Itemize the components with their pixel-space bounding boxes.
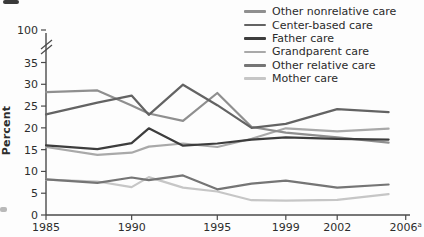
legend-label: Center-based care <box>272 19 373 32</box>
legend-item: Other relative care <box>244 59 396 72</box>
chart-legend: Other nonrelative care Center-based care… <box>244 5 396 85</box>
x-tick-label: 2006a <box>390 221 422 234</box>
legend-line-swatch <box>244 24 266 27</box>
y-tick-label: 5 <box>31 187 38 200</box>
x-tick-label: 2002 <box>323 221 351 234</box>
legend-item: Center-based care <box>244 18 396 31</box>
series-line-grandparent-care <box>46 128 389 155</box>
scan-artifact-mark <box>3 0 19 4</box>
y-tick-label: 25 <box>24 100 38 113</box>
chart-figure: Percent 05101520253035100198519901995199… <box>0 0 424 237</box>
y-tick-label: 20 <box>24 122 38 135</box>
legend-label: Father care <box>272 32 334 45</box>
series-line-other-relative-care <box>46 175 389 189</box>
legend-item: Father care <box>244 32 396 45</box>
y-axis-break-label: 100 <box>17 24 38 37</box>
legend-label: Other nonrelative care <box>272 5 396 18</box>
y-tick-label: 35 <box>24 57 38 70</box>
y-tick-label: 15 <box>24 144 38 157</box>
legend-item: Other nonrelative care <box>244 5 396 18</box>
legend-item: Grandparent care <box>244 45 396 58</box>
legend-label: Other relative care <box>272 59 376 72</box>
series-line-other-nonrelative-care <box>46 90 389 142</box>
legend-item: Mother care <box>244 72 396 85</box>
x-tick-label: 1990 <box>118 221 146 234</box>
scan-artifact-mark <box>0 207 7 212</box>
legend-line-swatch <box>244 64 266 67</box>
legend-label: Mother care <box>272 72 338 85</box>
legend-line-swatch <box>244 10 266 13</box>
y-tick-label: 10 <box>24 165 38 178</box>
y-axis-label: Percent <box>0 101 13 161</box>
legend-line-swatch <box>244 77 266 80</box>
x-tick-label: 1999 <box>272 221 300 234</box>
x-tick-label: 1985 <box>32 221 60 234</box>
legend-label: Grandparent care <box>272 45 369 58</box>
y-tick-label: 30 <box>24 78 38 91</box>
legend-line-swatch <box>244 37 266 40</box>
legend-line-swatch <box>244 51 266 54</box>
x-tick-label: 1995 <box>203 221 231 234</box>
